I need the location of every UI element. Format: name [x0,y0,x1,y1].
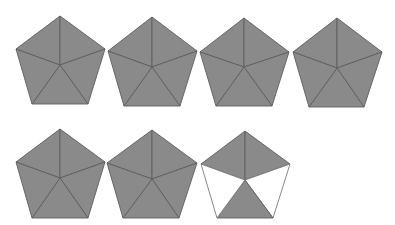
pentagon-5 [16,129,105,218]
pentagon-2 [108,17,197,106]
pentagon-fraction-diagram [0,0,395,225]
pentagon-6 [107,130,197,218]
pentagon-7 [201,131,290,218]
pentagon-3 [200,18,289,106]
pentagon-1 [16,16,105,104]
pentagon-4 [293,18,382,107]
